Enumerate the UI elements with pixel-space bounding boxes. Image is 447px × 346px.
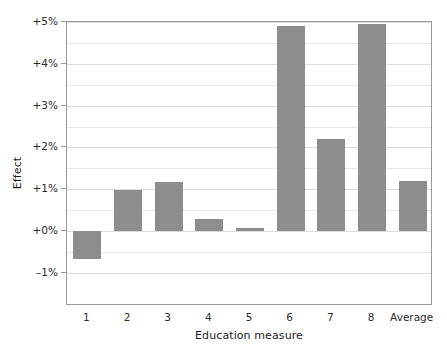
bar-chart: Effect Education measure +5%+4%+3%+2%+1%…	[0, 0, 447, 346]
bar-average	[399, 181, 427, 231]
x-tick-label-average: Average	[390, 311, 433, 323]
y-tick-label: +2%	[12, 140, 58, 152]
x-tick-label-5: 5	[246, 311, 253, 323]
y-tick-mark	[61, 230, 66, 231]
y-tick-mark	[61, 146, 66, 147]
bar-6	[277, 26, 305, 231]
bar-1	[73, 231, 101, 259]
bar-2	[114, 190, 142, 231]
y-tick-label: –1%	[12, 266, 58, 278]
bar-series	[67, 22, 431, 304]
bar-7	[317, 139, 345, 231]
plot-area	[66, 21, 432, 305]
x-tick-label-7: 7	[327, 311, 334, 323]
y-tick-mark	[61, 188, 66, 189]
y-tick-label: +0%	[12, 224, 58, 236]
bar-5	[236, 228, 264, 231]
x-axis-title: Education measure	[66, 329, 432, 342]
x-tick-label-3: 3	[164, 311, 171, 323]
y-axis-title: Effect	[8, 0, 26, 346]
y-tick-mark	[61, 63, 66, 64]
x-tick-label-8: 8	[368, 311, 375, 323]
bar-3	[155, 182, 183, 231]
y-tick-mark	[61, 105, 66, 106]
y-tick-label: +4%	[12, 57, 58, 69]
y-tick-label: +3%	[12, 99, 58, 111]
y-tick-label: +5%	[12, 15, 58, 27]
x-tick-label-1: 1	[83, 311, 90, 323]
x-tick-label-6: 6	[286, 311, 293, 323]
x-tick-label-2: 2	[124, 311, 131, 323]
bar-8	[358, 24, 386, 231]
y-tick-mark	[61, 272, 66, 273]
bar-4	[195, 219, 223, 231]
y-tick-mark	[61, 21, 66, 22]
y-tick-label: +1%	[12, 182, 58, 194]
x-tick-label-4: 4	[205, 311, 212, 323]
